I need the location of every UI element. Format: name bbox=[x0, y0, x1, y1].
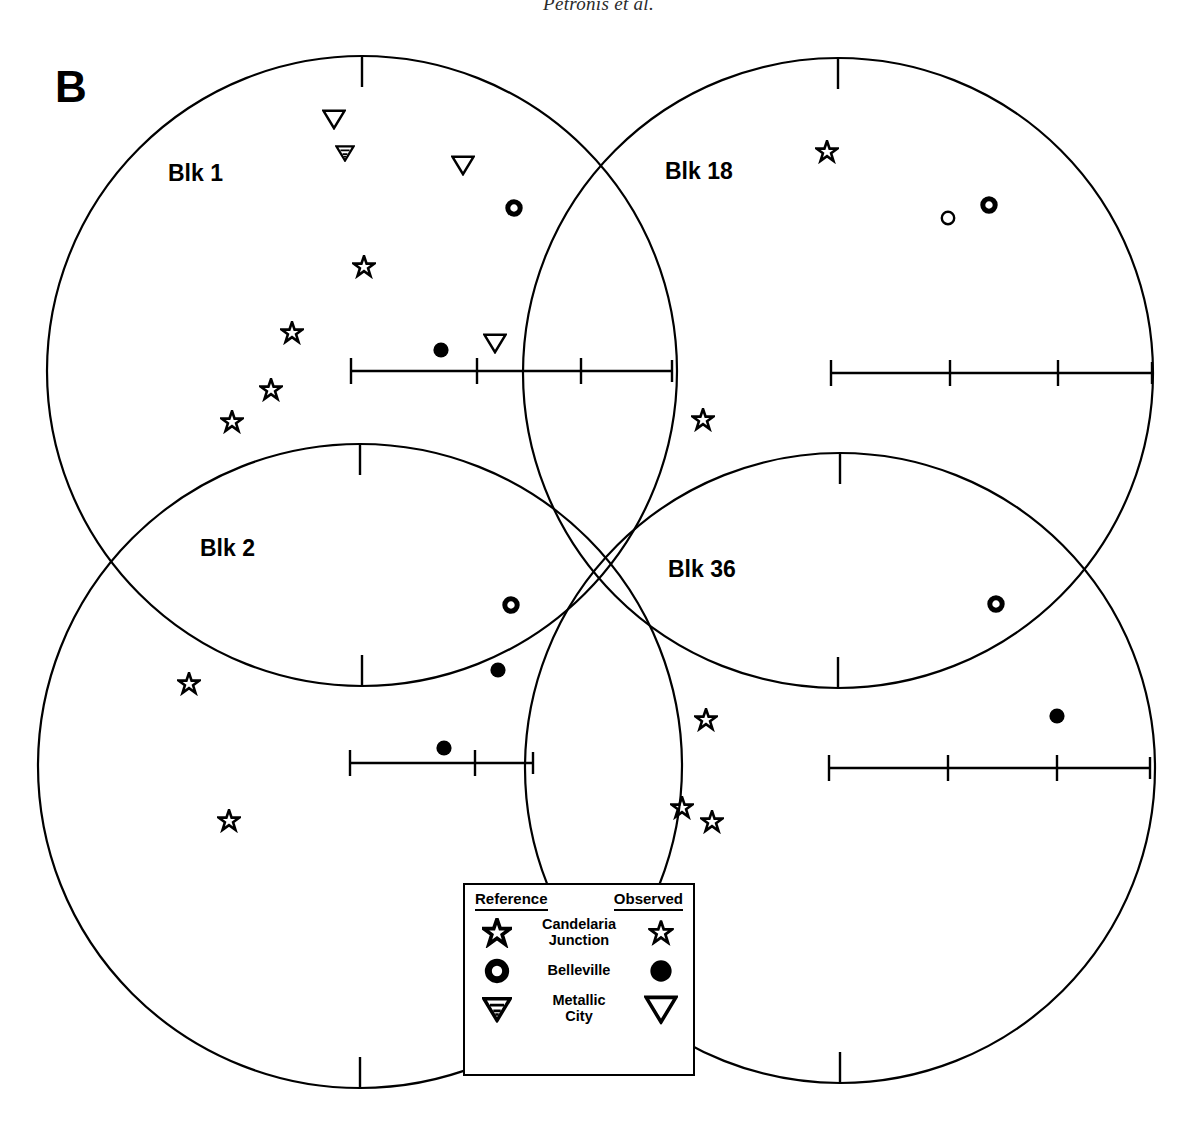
stereonet-blk18 bbox=[523, 58, 1153, 688]
data-point-metallic-city-observed bbox=[453, 157, 474, 174]
stereonet-label-blk2: Blk 2 bbox=[200, 537, 255, 560]
data-point-candelaria-junction-observed bbox=[222, 411, 243, 431]
data-point-candelaria-junction-observed bbox=[672, 797, 693, 817]
data-point-candelaria-junction-observed bbox=[693, 409, 714, 429]
stereonet-label-blk18: Blk 18 bbox=[665, 160, 733, 183]
legend-row-candelaria-junction: Candelaria Junction bbox=[473, 914, 685, 952]
data-point-belleville-reference bbox=[983, 199, 995, 211]
star-reference-icon bbox=[473, 918, 521, 948]
legend-header-observed: Observed bbox=[614, 891, 683, 911]
data-point-candelaria-junction-observed bbox=[179, 673, 200, 693]
legend-label-belleville: Belleville bbox=[521, 963, 637, 978]
data-point-metallic-city-observed bbox=[324, 111, 345, 128]
legend: Reference Observed Candelaria Junction bbox=[463, 883, 695, 1076]
data-point-belleville-reference bbox=[990, 598, 1002, 610]
legend-label-line2: City bbox=[523, 1009, 635, 1024]
legend-label-candelaria-junction: Candelaria Junction bbox=[521, 917, 637, 947]
legend-row-belleville: Belleville bbox=[473, 952, 685, 990]
data-point-belleville-observed bbox=[433, 342, 448, 357]
stereonet-label-blk36: Blk 36 bbox=[668, 558, 736, 581]
legend-label-line1: Belleville bbox=[523, 963, 635, 978]
data-point-belleville-reference bbox=[508, 202, 520, 214]
legend-header: Reference Observed bbox=[465, 885, 693, 911]
legend-row-metallic-city: Metallic City bbox=[473, 990, 685, 1028]
data-point-metallic-city-reference bbox=[336, 146, 353, 160]
data-point-candelaria-junction-observed bbox=[261, 379, 282, 399]
legend-header-reference: Reference bbox=[475, 891, 548, 911]
triangle-observed-icon bbox=[637, 993, 685, 1025]
circle-filled-icon bbox=[637, 957, 685, 985]
legend-rows: Candelaria Junction Belleville bbox=[465, 911, 693, 1032]
data-point-belleville-reference bbox=[505, 599, 517, 611]
triangle-reference-icon bbox=[473, 995, 521, 1023]
data-point-belleville-observed-open bbox=[942, 212, 954, 224]
star-observed-icon bbox=[637, 918, 685, 948]
legend-label-metallic-city: Metallic City bbox=[521, 993, 637, 1023]
data-point-metallic-city-observed bbox=[485, 335, 506, 352]
figure-panel-b: Petronis et al. bbox=[0, 0, 1197, 1141]
stereonet-label-blk1: Blk 1 bbox=[168, 162, 223, 185]
panel-letter: B bbox=[55, 65, 87, 109]
data-point-candelaria-junction-observed bbox=[702, 811, 723, 831]
data-point-belleville-observed bbox=[490, 662, 505, 677]
legend-label-line1: Candelaria bbox=[523, 917, 635, 932]
data-point-belleville-observed bbox=[1049, 708, 1064, 723]
legend-label-line2: Junction bbox=[523, 933, 635, 948]
data-point-candelaria-junction-observed bbox=[817, 141, 838, 161]
data-point-candelaria-junction-observed bbox=[219, 810, 240, 830]
legend-label-line1: Metallic bbox=[523, 993, 635, 1008]
circle-reference-icon bbox=[473, 957, 521, 985]
data-point-candelaria-junction-observed bbox=[282, 322, 303, 342]
data-point-belleville-observed bbox=[436, 740, 451, 755]
stereonet-blk1 bbox=[47, 56, 677, 686]
data-point-candelaria-junction-observed bbox=[696, 709, 717, 729]
data-point-candelaria-junction-observed bbox=[354, 256, 375, 276]
